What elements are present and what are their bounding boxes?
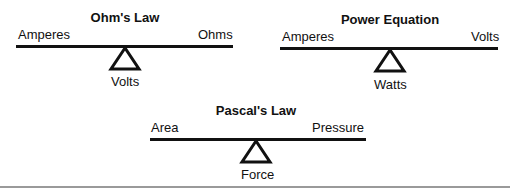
left-label: Amperes	[18, 27, 70, 42]
right-label: Volts	[471, 29, 499, 44]
fulcrum-label: Force	[241, 167, 274, 182]
fulcrum-triangle-icon	[239, 139, 273, 165]
fulcrum-label: Watts	[374, 77, 407, 92]
left-label: Area	[151, 120, 178, 135]
diagram-title: Pascal's Law	[206, 103, 306, 118]
fulcrum-triangle-icon	[373, 48, 407, 74]
diagram-title: Ohm's Law	[75, 10, 175, 25]
fulcrum-triangle-icon	[108, 46, 142, 72]
diagram-title: Power Equation	[330, 12, 450, 27]
right-label: Pressure	[312, 120, 364, 135]
left-label: Amperes	[282, 29, 334, 44]
right-label: Ohms	[198, 27, 233, 42]
bottom-divider	[0, 186, 510, 188]
fulcrum-label: Volts	[111, 74, 139, 89]
